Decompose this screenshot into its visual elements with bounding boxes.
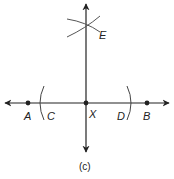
label-x: X <box>88 108 97 120</box>
label-e: E <box>99 29 107 41</box>
label-d: D <box>117 110 125 122</box>
perpendicular-construction-diagram: E A C X D B (c) <box>0 0 174 179</box>
arc-e-1 <box>67 19 100 32</box>
arc-e-2 <box>67 16 100 37</box>
label-c: C <box>47 110 55 122</box>
label-b: B <box>143 110 150 122</box>
point-b <box>145 101 150 106</box>
point-a <box>26 101 31 106</box>
caption: (c) <box>79 161 91 172</box>
label-a: A <box>23 110 31 122</box>
point-x <box>84 101 89 106</box>
